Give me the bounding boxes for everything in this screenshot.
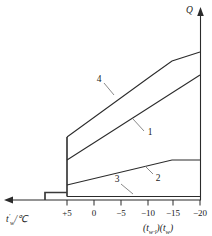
tick-label: +5: [62, 208, 72, 218]
curve-4: [67, 52, 200, 137]
svg-text:(tw·l)(tw): (tw·l)(tw): [143, 223, 173, 235]
y-axis: [197, 7, 204, 200]
x-axis-label-left: t'w/℃: [6, 212, 29, 226]
x-axis-ticks: [67, 200, 200, 206]
x-axis-label-left-prime: ': [9, 212, 11, 219]
x-axis-tick-labels: +5 0 −5 −10 −15 −20: [62, 208, 207, 218]
leader-line-2: [145, 166, 153, 174]
x-axis-label-right-close: ): [169, 223, 173, 234]
svg-text:t'w/℃: t'w/℃: [6, 212, 29, 226]
x-axis-label-right-mid: )(t: [156, 223, 166, 234]
tick-label: −10: [141, 208, 156, 218]
y-axis-label: Q: [186, 5, 193, 15]
leader-line-1: [133, 119, 144, 131]
x-axis-label-left-unit: /℃: [13, 214, 29, 224]
curve-label-4: 4: [97, 74, 102, 84]
curve-1: [67, 75, 200, 160]
chart-svg: +5 0 −5 −10 −15 −20 4 1 2 3 Q: [0, 0, 212, 236]
x-axis-arrowhead-icon: [4, 197, 13, 204]
curve-2: [67, 160, 200, 185]
x-axis-label-right: (tw·l)(tw): [143, 223, 173, 235]
tick-label: 0: [92, 208, 97, 218]
curve-label-3: 3: [115, 174, 120, 184]
curve-label-2: 2: [156, 173, 161, 183]
curve-label-1: 1: [148, 127, 153, 137]
leader-line-3: [121, 184, 133, 194]
x-axis-label-right-sub1: w·l: [149, 228, 157, 235]
leader-line-4: [104, 83, 114, 95]
y-axis-arrowhead-icon: [197, 7, 204, 16]
axis-step-segment: [45, 193, 67, 201]
chart-figure: +5 0 −5 −10 −15 −20 4 1 2 3 Q: [0, 0, 212, 236]
tick-label: −5: [116, 208, 126, 218]
x-axis: [4, 197, 201, 204]
tick-label: −20: [193, 208, 208, 218]
tick-label: −15: [166, 208, 181, 218]
